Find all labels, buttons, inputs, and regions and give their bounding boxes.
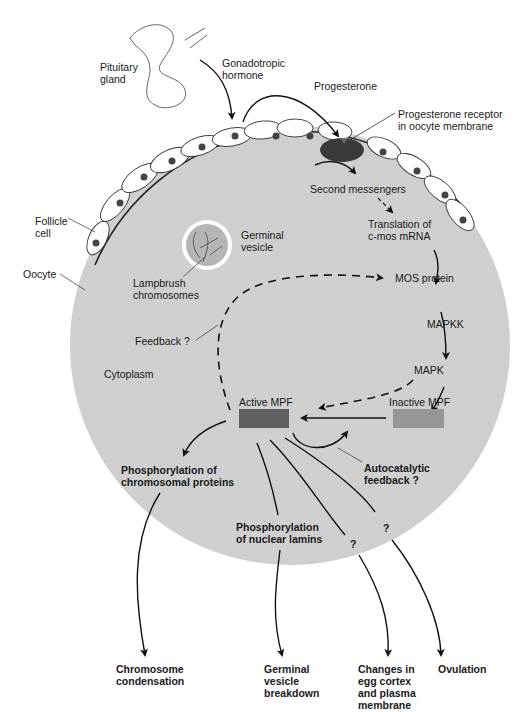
label-translation-cmos: Translation of c-mos mRNA: [368, 218, 431, 242]
label-cytoplasm: Cytoplasm: [104, 368, 154, 380]
diagram-canvas: [0, 0, 519, 712]
label-feedback: Feedback ?: [135, 335, 190, 347]
label-chromosome-condensation: Chromosome condensation: [116, 663, 184, 687]
label-germinal-vesicle: Germinal vesicle: [241, 229, 284, 253]
pituitary-gland: [130, 25, 207, 108]
label-gonadotropic-hormone: Gonadotropic hormone: [222, 57, 285, 81]
label-germinal-vesicle-breakdown: Germinal vesicle breakdown: [264, 663, 319, 699]
inactive-mpf-box: [393, 409, 444, 428]
label-mos-protein: MOS protein: [395, 272, 454, 284]
label-phosphorylation-lamins: Phosphorylation of nuclear lamins: [236, 521, 322, 545]
label-question-2: ?: [383, 522, 389, 534]
label-lampbrush-chromosomes: Lampbrush chromosomes: [133, 277, 199, 301]
label-oocyte: Oocyte: [23, 268, 56, 280]
label-follicle-cell: Follicle cell: [35, 215, 68, 239]
label-active-mpf: Active MPF: [239, 396, 293, 408]
label-autocatalytic-feedback: Autocatalytic feedback ?: [364, 462, 430, 486]
label-second-messengers: Second messengers: [310, 183, 406, 195]
label-phosphorylation-chromosomal: Phosphorylation of chromosomal proteins: [121, 464, 234, 488]
progesterone-receptor: [320, 138, 364, 162]
label-changes-egg-cortex: Changes in egg cortex and plasma membran…: [358, 663, 416, 711]
label-ovulation: Ovulation: [438, 663, 486, 675]
label-inactive-mpf: Inactive MPF: [389, 396, 450, 408]
label-question-1: ?: [350, 538, 356, 550]
label-mapk: MAPK: [414, 364, 444, 376]
label-progesterone-receptor: Progesterone receptor in oocyte membrane: [398, 108, 502, 132]
label-pituitary-gland: Pituitary gland: [100, 61, 138, 85]
active-mpf-box: [239, 409, 289, 428]
label-progesterone: Progesterone: [314, 80, 377, 92]
label-mapkk: MAPKK: [427, 318, 464, 330]
